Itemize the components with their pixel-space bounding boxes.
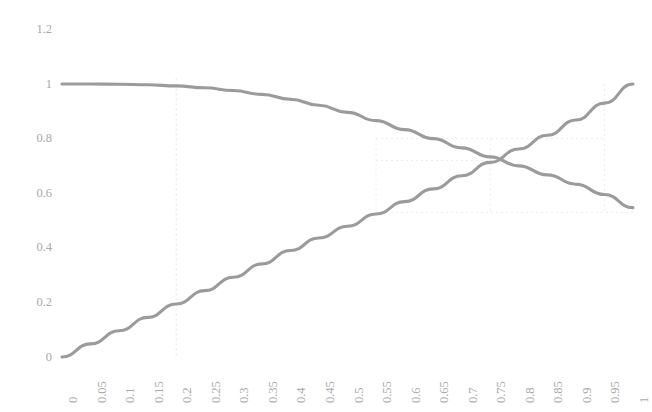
series-line-rising	[62, 84, 633, 357]
guide-lines	[176, 79, 633, 357]
plot-area	[0, 0, 652, 412]
series-line-falling	[62, 84, 633, 208]
data-series	[62, 84, 633, 357]
chart-container: 00.20.40.60.811.2 00.050.10.150.20.250.3…	[0, 0, 652, 412]
